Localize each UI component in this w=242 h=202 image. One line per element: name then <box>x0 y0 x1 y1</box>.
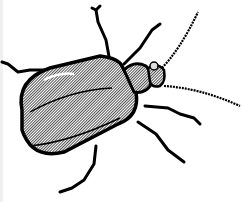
beetle-eye <box>150 62 158 70</box>
beetle-illustration <box>0 0 242 202</box>
beetle-antennae <box>160 12 240 106</box>
